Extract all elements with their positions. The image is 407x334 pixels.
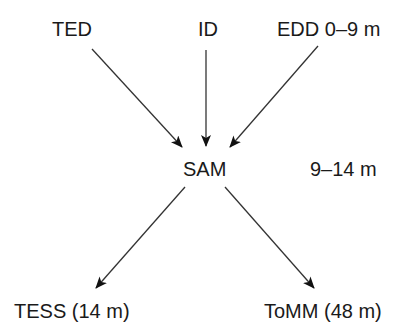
node-tomm: ToMM (48 m) — [264, 301, 382, 321]
node-edd: EDD 0–9 m — [277, 19, 380, 39]
arrow-ted-to-sam — [92, 49, 182, 147]
arrow-sam-to-tess — [96, 187, 185, 288]
node-tess: TESS (14 m) — [14, 301, 130, 321]
node-sam: SAM — [183, 159, 226, 179]
sam-age-label: 9–14 m — [310, 159, 377, 179]
node-ted: TED — [52, 19, 92, 39]
mindreading-system-diagram: TED ID EDD 0–9 m SAM 9–14 m TESS (14 m) … — [0, 0, 407, 334]
arrow-sam-to-tomm — [225, 187, 314, 288]
arrow-edd-to-sam — [230, 46, 318, 147]
node-id: ID — [198, 19, 218, 39]
